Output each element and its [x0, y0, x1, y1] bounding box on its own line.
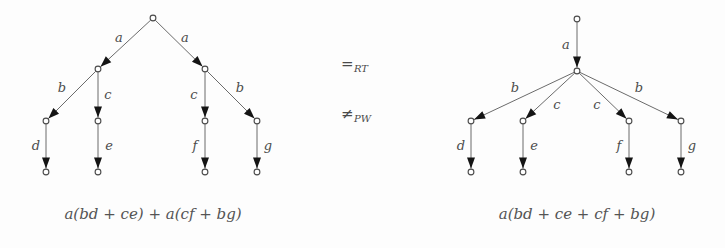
edge-label: b: [58, 80, 66, 95]
edge-a: a: [100, 20, 150, 67]
edge-label: b: [511, 80, 519, 95]
edge-a: a: [562, 22, 581, 67]
tree-node: [520, 118, 526, 124]
edge-c: c: [190, 72, 209, 117]
arrow-head-icon: [474, 111, 486, 119]
tree-node: [254, 118, 260, 124]
figure-container: aabccbdefg abccbdefg =RT≠PW a(bd + ce) +…: [0, 0, 725, 248]
edge-label: a: [562, 37, 570, 52]
arrow-head-icon: [201, 158, 209, 169]
arrow-head-icon: [519, 158, 527, 169]
edge-label: f: [192, 138, 200, 153]
edge-b: b: [48, 71, 95, 118]
tree-node: [468, 118, 474, 124]
edge-c: c: [525, 73, 574, 119]
tree-node: [95, 118, 101, 124]
right-process-tree: abccbdefg: [457, 16, 696, 175]
arrow-head-icon: [42, 158, 50, 169]
tree-node: [202, 118, 208, 124]
edge-f: f: [616, 124, 633, 168]
edge-label: d: [457, 138, 465, 153]
edge-d: d: [32, 124, 50, 168]
edge-e: e: [94, 124, 113, 168]
tree-node: [202, 66, 208, 72]
tree-node: [574, 16, 580, 22]
tree-node: [574, 68, 580, 74]
edge-f: f: [192, 124, 209, 168]
edge-label: a: [115, 30, 123, 45]
edge-label: b: [635, 80, 643, 95]
edge-label: c: [553, 97, 561, 112]
captions: a(bd + ce) + a(cf + bg)a(bd + ce + cf + …: [64, 205, 655, 223]
arrow-head-icon: [677, 158, 685, 169]
edge-label: b: [236, 80, 244, 95]
edge-label: e: [530, 138, 538, 153]
edge-label: g: [264, 138, 272, 153]
tree-node: [95, 66, 101, 72]
equals-rt-subscript: RT: [353, 63, 369, 74]
edge-g: g: [677, 124, 696, 168]
left-caption: a(bd + ce) + a(cf + bg): [64, 205, 241, 223]
edge-label: f: [616, 138, 624, 153]
tree-node: [150, 15, 156, 21]
edge-label: e: [105, 138, 113, 153]
edge-label: c: [593, 97, 601, 112]
edge-b: b: [207, 71, 254, 118]
tree-node: [678, 118, 684, 124]
tree-node: [678, 169, 684, 175]
right-caption: a(bd + ce + cf + bg): [499, 205, 656, 223]
relation-symbols: =RT≠PW: [341, 55, 372, 124]
not-equals-pw: ≠: [341, 105, 354, 123]
tree-node: [626, 169, 632, 175]
arrow-head-icon: [94, 107, 102, 118]
arrow-head-icon: [573, 57, 581, 68]
edge-c: c: [579, 73, 626, 118]
arrow-head-icon: [625, 158, 633, 169]
edge-e: e: [519, 124, 538, 168]
edge-label: c: [190, 87, 198, 102]
edge-a: a: [155, 20, 202, 66]
edge-d: d: [457, 124, 475, 168]
arrow-head-icon: [201, 107, 209, 118]
tree-node: [520, 169, 526, 175]
edge-label: a: [181, 30, 189, 45]
edge-label: d: [32, 138, 40, 153]
edge-g: g: [253, 124, 272, 168]
tree-node: [254, 169, 260, 175]
left-process-tree: aabccbdefg: [32, 15, 272, 175]
arrow-head-icon: [666, 111, 678, 119]
equals-rt: =: [341, 55, 354, 73]
edge-label: c: [104, 87, 112, 102]
tree-node: [202, 169, 208, 175]
not-equals-pw-subscript: PW: [353, 113, 372, 124]
tree-node: [95, 169, 101, 175]
tree-diagram-svg: aabccbdefg abccbdefg =RT≠PW a(bd + ce) +…: [0, 0, 725, 248]
edge-label: g: [688, 138, 696, 153]
arrow-head-icon: [467, 158, 475, 169]
tree-node: [626, 118, 632, 124]
tree-node: [468, 169, 474, 175]
edge-c: c: [94, 72, 112, 117]
arrow-head-icon: [94, 158, 102, 169]
tree-node: [43, 169, 49, 175]
tree-node: [43, 118, 49, 124]
arrow-head-icon: [253, 158, 261, 169]
